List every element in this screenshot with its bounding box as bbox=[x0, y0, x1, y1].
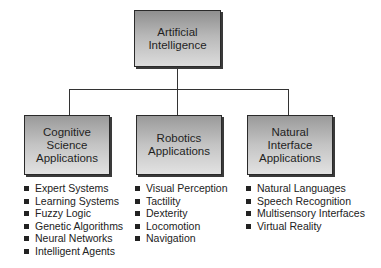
node-label: Cognitive Science Applications bbox=[36, 126, 98, 165]
list-item: Navigation bbox=[135, 232, 228, 245]
list-item: Expert Systems bbox=[24, 182, 123, 195]
root-node-label: Artificial Intelligence bbox=[148, 26, 206, 52]
connector-right-vertical bbox=[288, 89, 289, 115]
list-item: Virtual Reality bbox=[246, 220, 365, 233]
list-item: Dexterity bbox=[135, 207, 228, 220]
node-label: Robotics Applications bbox=[148, 132, 210, 158]
connector-root-vertical bbox=[177, 69, 178, 90]
node-robotics-applications: Robotics Applications bbox=[136, 115, 222, 175]
list-item: Learning Systems bbox=[24, 195, 123, 208]
connector-left-vertical bbox=[69, 89, 70, 115]
connector-middle-vertical bbox=[177, 89, 178, 115]
robotics-list: Visual Perception Tactility Dexterity Lo… bbox=[135, 182, 228, 245]
list-item: Tactility bbox=[135, 195, 228, 208]
natural-interface-list: Natural Languages Speech Recognition Mul… bbox=[246, 182, 365, 232]
list-item: Visual Perception bbox=[135, 182, 228, 195]
node-cognitive-science-applications: Cognitive Science Applications bbox=[24, 115, 110, 175]
list-item: Speech Recognition bbox=[246, 195, 365, 208]
list-item: Neural Networks bbox=[24, 232, 123, 245]
connector-horizontal bbox=[69, 89, 289, 90]
list-item: Natural Languages bbox=[246, 182, 365, 195]
list-item: Intelligent Agents bbox=[24, 245, 123, 258]
cognitive-science-list: Expert Systems Learning Systems Fuzzy Lo… bbox=[24, 182, 123, 258]
node-natural-interface-applications: Natural Interface Applications bbox=[247, 115, 333, 175]
node-label: Natural Interface Applications bbox=[259, 126, 321, 165]
list-item: Locomotion bbox=[135, 220, 228, 233]
list-item: Fuzzy Logic bbox=[24, 207, 123, 220]
list-item: Genetic Algorithms bbox=[24, 220, 123, 233]
list-item: Multisensory Interfaces bbox=[246, 207, 365, 220]
root-node-artificial-intelligence: Artificial Intelligence bbox=[134, 10, 221, 67]
